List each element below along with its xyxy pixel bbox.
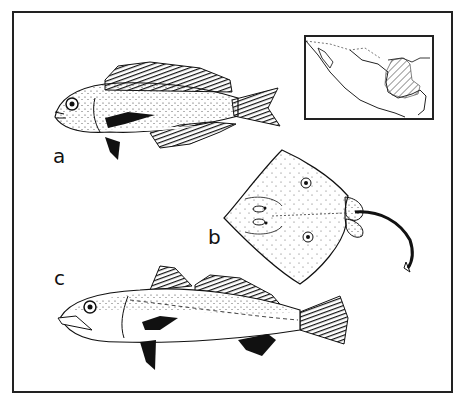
fish-c	[58, 266, 348, 370]
label-b: b	[208, 227, 221, 247]
fish-a	[55, 62, 280, 160]
label-c: c	[54, 268, 65, 288]
caudal-fin	[300, 296, 348, 344]
ray-tail	[355, 212, 412, 268]
ray-disc	[224, 150, 348, 284]
pelvic-fin	[105, 137, 120, 160]
stingray-b	[224, 150, 412, 284]
illustration-canvas	[0, 0, 468, 405]
spiny-dorsal-fin	[150, 266, 192, 290]
caudal-fin	[232, 88, 280, 126]
inset-map	[305, 36, 433, 119]
label-a: a	[53, 146, 65, 166]
pelvic-fin	[140, 340, 156, 370]
